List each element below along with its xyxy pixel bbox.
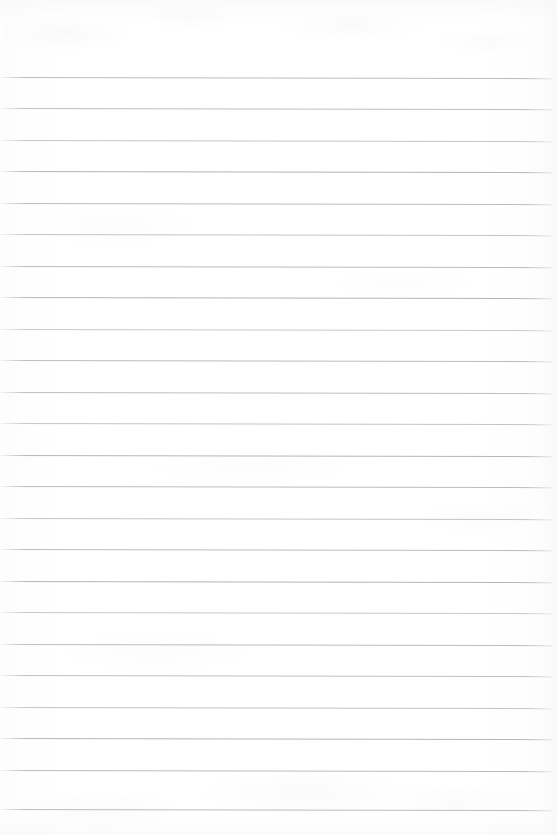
ruled-line: [0, 644, 552, 646]
ruled-line: [0, 234, 552, 236]
ruled-line: [0, 266, 552, 268]
ruled-line: [0, 738, 552, 740]
ruled-line: [0, 203, 552, 205]
ruled-line: [0, 486, 552, 488]
ruled-line: [0, 675, 552, 677]
ruled-line: [0, 707, 552, 709]
ruled-line: [0, 77, 552, 79]
ruled-line: [0, 809, 552, 811]
ruled-line: [0, 581, 552, 583]
ruled-line: [0, 297, 552, 299]
ruled-line: [0, 329, 552, 331]
ruled-line: [0, 108, 552, 110]
ruled-line: [0, 423, 552, 425]
ruled-line: [0, 518, 552, 520]
ruled-line: [0, 612, 552, 614]
ruled-line: [0, 171, 552, 173]
ruled-line: [0, 455, 552, 457]
ruled-line: [0, 140, 552, 142]
ruled-line: [0, 549, 552, 551]
ruled-line: [0, 770, 552, 772]
ruled-lines-layer: [0, 0, 557, 835]
ruled-line: [0, 392, 552, 394]
scanned-page: [0, 0, 557, 835]
ruled-line: [0, 360, 552, 362]
